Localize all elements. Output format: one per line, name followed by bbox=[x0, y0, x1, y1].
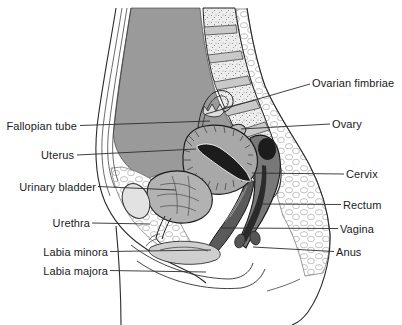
label-labia-minora: Labia minora bbox=[43, 246, 108, 258]
label-ovary: Ovary bbox=[332, 118, 362, 130]
label-ovarian-fimbriae: Ovarian fimbriae bbox=[312, 77, 394, 89]
label-cervix: Cervix bbox=[346, 168, 378, 180]
figure-female-pelvis-sagittal: Fallopian tube Uterus Urinary bladder Ur… bbox=[0, 0, 402, 325]
label-fallopian-tube: Fallopian tube bbox=[6, 120, 77, 132]
leader-rectum bbox=[260, 204, 341, 205]
label-uterus: Uterus bbox=[41, 149, 74, 161]
leader-vagina bbox=[221, 228, 338, 229]
label-labia-majora: Labia majora bbox=[43, 265, 108, 277]
label-vagina: Vagina bbox=[340, 223, 374, 235]
labia-minora-shape bbox=[149, 241, 220, 264]
label-urethra: Urethra bbox=[53, 217, 90, 229]
leader-labia-majora bbox=[110, 271, 206, 273]
label-anus: Anus bbox=[336, 246, 361, 258]
label-urinary-bladder: Urinary bladder bbox=[19, 181, 96, 193]
label-rectum: Rectum bbox=[343, 199, 382, 211]
